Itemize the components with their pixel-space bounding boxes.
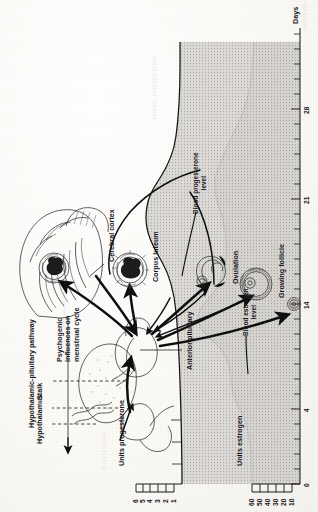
axis-title-days: Days (292, 7, 300, 24)
callout-progesterone-line-0: Blood progesterone (192, 152, 200, 214)
label-anterior-pituitary: Anterior pituitary (186, 312, 194, 370)
figure-canvas: Hypothalamus Hypothalamic-pituitary path… (0, 0, 318, 512)
ytick-progesterone-6: 6 (132, 499, 139, 503)
corpus-luteum-illustration (112, 250, 149, 290)
ytick-estrogen-40: 40 (264, 499, 271, 506)
ytick-progesterone-1: 1 (170, 499, 177, 503)
corpus-albicans-illustration (39, 253, 69, 283)
callout-blood-estrogen: Blood estrogen level (242, 288, 257, 336)
ytick-progesterone-5: 5 (139, 499, 146, 503)
xtick-label-0: 0 (303, 483, 310, 487)
psychogenic-line-1: influences on (64, 308, 72, 362)
hormone-graph: Hypothalamus Hypothalamic-pituitary path… (0, 0, 318, 512)
ytick-estrogen-50: 50 (256, 499, 263, 506)
xtick-label-3: 21 (303, 197, 310, 204)
label-hypothalamic-pituitary-pathway: Hypothalamic-pituitary pathway (28, 319, 36, 428)
ytick-progesterone-4: 4 (146, 499, 153, 503)
callout-blood-progesterone: Blood progesterone level (192, 152, 207, 214)
ytick-estrogen-10: 10 (288, 499, 295, 506)
label-psychogenic-influences: Psychogenic influences on menstrual cycl… (56, 308, 81, 362)
callout-estrogen-line-1: level (250, 288, 258, 336)
label-stalk: Stalk (36, 383, 44, 400)
scanned-page: menstrual cycle and the hormones of the … (0, 0, 318, 512)
label-hypothalamus: Hypothalamus (36, 395, 44, 444)
xtick-label-4: 28 (303, 107, 310, 114)
axis-title-units-estrogen: Units estrogen (236, 416, 244, 466)
ytick-estrogen-20: 20 (280, 499, 287, 506)
ytick-progesterone-2: 2 (162, 499, 169, 503)
ytick-estrogen-30: 30 (272, 499, 279, 506)
callout-progesterone-line-1: level (200, 152, 208, 214)
callout-estrogen-line-0: Blood estrogen (242, 288, 250, 336)
axis-title-units-progesterone: Units progesterone (118, 400, 126, 466)
label-corpus-luteum: Corpus luteum (152, 231, 160, 282)
ytick-estrogen-60: 60 (248, 499, 255, 506)
xtick-label-1: 4 (303, 408, 310, 412)
label-ovulation: Ovulation (232, 251, 240, 284)
psychogenic-line-2: menstrual cycle (73, 308, 81, 362)
label-cerebral-cortex: Cerebral cortex (108, 209, 116, 262)
xtick-label-2: 14 (303, 302, 310, 309)
psychogenic-line-0: Psychogenic (56, 308, 64, 362)
label-growing-follicle: Growing follicle (278, 244, 286, 298)
ytick-progesterone-3: 3 (154, 499, 161, 503)
